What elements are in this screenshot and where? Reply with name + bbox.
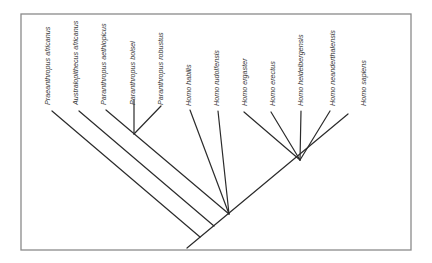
label-paranthropus-aethiopicus: Paranthropus aethiopicus	[99, 23, 108, 105]
cladogram-diagram: Praeanthropus africanus Australopithecus…	[0, 0, 432, 263]
label-homo-erectus: Homo erectus	[268, 61, 277, 106]
label-homo-rudolfensis: Homo rudolfensis	[212, 50, 221, 106]
branch-homo-erectus	[271, 112, 300, 160]
label-praeanthropus-africanus: Praeanthropus africanus	[43, 26, 52, 105]
label-homo-ergaster: Homo ergaster	[240, 58, 249, 106]
label-homo-neanderthalensis: Homo neanderthalensis	[328, 30, 337, 106]
branch-homo-ergaster	[244, 112, 300, 160]
label-homo-heidelbergensis: Homo heidelbergensis	[296, 34, 305, 106]
label-paranthropus-boisei: Paranthropus boisei	[128, 41, 137, 105]
branch-australopithecus-africanus	[79, 111, 214, 226]
label-australopithecus-africanus: Australopithecus africanus	[71, 20, 80, 106]
label-paranthropus-robustus: Paranthropus robustus	[156, 32, 165, 105]
branch-paranthropus-aethiopicus	[106, 110, 229, 214]
branch-homo-neanderthalensis	[300, 111, 330, 160]
label-homo-habilis: Homo habilis	[184, 64, 193, 106]
label-homo-sapiens: Homo sapiens	[359, 60, 368, 106]
branch-paranthropus-robustus	[134, 106, 161, 134]
branch-praeanthropus-africanus	[52, 111, 200, 237]
main-trunk-branch	[187, 114, 348, 248]
